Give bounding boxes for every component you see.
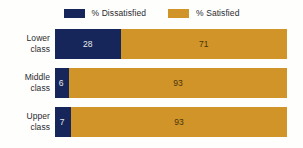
bar-segment-satisfied[interactable]: 93 (69, 68, 287, 98)
category-label-upper-class: Upper class (0, 107, 50, 137)
category-label-line2: class (30, 83, 50, 94)
stacked-bar-chart: % Dissatisfied % Satisfied Lower class 2… (0, 0, 303, 148)
legend-swatch-dissatisfied-icon (64, 9, 85, 18)
legend-label-dissatisfied: % Dissatisfied (92, 8, 147, 18)
legend-item-dissatisfied[interactable]: % Dissatisfied (64, 6, 147, 20)
bar-value-dissatisfied: 7 (60, 117, 65, 127)
legend-swatch-satisfied-icon (168, 9, 189, 18)
bar-segment-dissatisfied[interactable]: 28 (55, 29, 121, 59)
bar-value-satisfied: 93 (173, 78, 183, 88)
legend-item-satisfied[interactable]: % Satisfied (168, 6, 239, 20)
bar-row: Upper class 7 93 (0, 107, 303, 137)
bar-segment-satisfied[interactable]: 71 (121, 29, 287, 59)
bar-segment-dissatisfied[interactable]: 7 (55, 107, 71, 137)
bar-row: Lower class 28 71 (0, 29, 303, 59)
category-label-middle-class: Middle class (0, 68, 50, 98)
bar-value-dissatisfied: 6 (59, 78, 64, 88)
chart-legend: % Dissatisfied % Satisfied (0, 6, 303, 20)
bar-value-satisfied: 71 (199, 39, 209, 49)
bar-segment-satisfied[interactable]: 93 (71, 107, 287, 137)
bar-track: 28 71 (55, 29, 287, 59)
bar-row: Middle class 6 93 (0, 68, 303, 98)
category-label-line2: class (30, 44, 50, 55)
bar-track: 6 93 (55, 68, 287, 98)
legend-label-satisfied: % Satisfied (196, 8, 239, 18)
category-label-line1: Lower (27, 33, 50, 44)
bar-segment-dissatisfied[interactable]: 6 (55, 68, 69, 98)
bar-value-dissatisfied: 28 (83, 39, 93, 49)
bar-track: 7 93 (55, 107, 287, 137)
bar-value-satisfied: 93 (174, 117, 184, 127)
category-label-line2: class (30, 122, 50, 133)
category-label-line1: Middle (25, 72, 50, 83)
category-label-line1: Upper (27, 111, 50, 122)
chart-plot-area: Lower class 28 71 Middle class 6 (0, 23, 303, 148)
category-label-lower-class: Lower class (0, 29, 50, 59)
